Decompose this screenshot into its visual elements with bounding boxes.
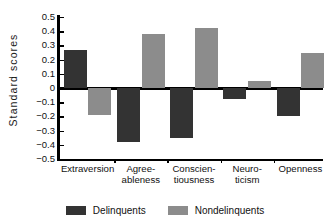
x-axis-category-label: Agree-ableness — [110, 163, 171, 185]
y-axis-tick-label: −0.5 — [28, 154, 55, 164]
bar — [223, 88, 246, 99]
y-axis-tick-mark — [60, 116, 64, 117]
bar — [195, 28, 218, 88]
plot-area — [57, 17, 323, 159]
bar — [142, 34, 165, 88]
bar — [117, 88, 140, 142]
x-axis-label-line-1: Agree- — [126, 163, 155, 174]
y-axis-tick-mark — [60, 45, 64, 46]
legend-swatch-icon — [66, 206, 86, 215]
x-axis-label-line-1: Extraversion — [61, 163, 114, 174]
y-axis-title-container: Standard scores — [0, 14, 20, 164]
legend-label: Delinquents — [93, 205, 146, 216]
y-axis-tick-mark — [60, 131, 64, 132]
bar — [88, 88, 111, 115]
y-axis-tick-mark — [60, 159, 64, 160]
y-axis-tick-label: −0.1 — [28, 97, 55, 107]
x-axis-label-line-1: Openness — [279, 163, 323, 174]
y-axis-tick-label: 0.2 — [28, 55, 55, 65]
chart-legend: DelinquentsNondelinquents — [0, 199, 330, 221]
x-axis-category-label: Conscien-tiousness — [163, 163, 224, 185]
bar — [64, 50, 87, 88]
x-axis-label-line-2: ableness — [110, 174, 171, 185]
bar — [301, 53, 324, 89]
y-axis-tick-label: −0.2 — [28, 111, 55, 121]
x-axis-label-line-1: Conscien- — [172, 163, 215, 174]
x-axis-label-line-1: Neuro- — [233, 163, 262, 174]
y-axis-tick-label: 0.4 — [28, 26, 55, 36]
x-axis-label-line-2: tiousness — [163, 174, 224, 185]
y-axis-tick-mark — [60, 31, 64, 32]
y-axis-tick-labels: 0.50.40.30.20.10−0.1−0.2−0.3−0.4−0.5 — [28, 12, 55, 164]
bar — [277, 88, 300, 116]
y-axis-tick-label: −0.4 — [28, 140, 55, 150]
y-axis-tick-mark — [60, 145, 64, 146]
legend-item: Nondelinquents — [168, 205, 265, 216]
y-axis-tick-mark — [60, 102, 64, 103]
x-axis-category-label: Extraversion — [57, 163, 118, 174]
bar — [248, 81, 271, 88]
x-axis-line — [57, 159, 323, 161]
y-axis-tick-label: 0.1 — [28, 69, 55, 79]
legend-label: Nondelinquents — [195, 205, 265, 216]
y-axis-tick-label: 0.3 — [28, 40, 55, 50]
bar — [170, 88, 193, 138]
legend-swatch-icon — [168, 206, 188, 215]
x-axis-category-labels: ExtraversionAgree-ablenessConscien-tious… — [57, 163, 330, 195]
y-axis-tick-mark — [60, 17, 64, 18]
y-axis-title: Standard scores — [7, 5, 19, 155]
x-axis-category-label: Openness — [270, 163, 330, 174]
y-axis-tick-label: 0 — [28, 83, 55, 93]
y-axis-tick-label: −0.3 — [28, 126, 55, 136]
legend-item: Delinquents — [66, 205, 146, 216]
x-axis-category-label: Neuro-ticism — [217, 163, 278, 185]
x-axis-label-line-2: ticism — [217, 174, 278, 185]
bar-chart-figure: Standard scores 0.50.40.30.20.10−0.1−0.2… — [0, 0, 330, 223]
y-axis-tick-label: 0.5 — [28, 12, 55, 22]
